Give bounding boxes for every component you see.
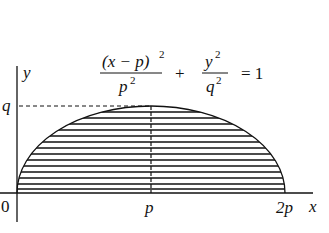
p-tick-label: p <box>144 198 154 217</box>
y-axis-label: y <box>21 63 31 82</box>
ellipse-equation: (x − p) 2 p 2 + y 2 q 2 = 1 <box>100 48 263 96</box>
term1-denominator: p <box>118 77 128 96</box>
term1-numerator: (x − p) <box>102 52 150 71</box>
term1-numerator-exponent: 2 <box>159 48 165 60</box>
q-tick-label: q <box>2 96 11 115</box>
plus-sign: + <box>175 64 185 83</box>
x-axis-label: x <box>308 197 317 216</box>
origin-label: 0 <box>1 197 10 216</box>
term1-denominator-exponent: 2 <box>130 74 136 86</box>
term2-denominator: q <box>206 77 215 96</box>
term2-numerator-exponent: 2 <box>215 48 221 60</box>
ellipse-diagram: y q 0 p 2p x (x − p) 2 p 2 + y 2 q 2 = 1 <box>0 0 329 233</box>
2p-tick-label: 2p <box>276 198 293 217</box>
horizontal-strips <box>0 112 329 189</box>
term2-denominator-exponent: 2 <box>216 74 222 86</box>
equation-rhs: = 1 <box>241 64 263 83</box>
term2-numerator: y <box>203 52 213 71</box>
